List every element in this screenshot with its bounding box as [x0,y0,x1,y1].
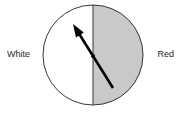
figure-container: White Red [0,0,182,113]
shaded-right-half [93,5,143,105]
label-red: Red [157,50,174,59]
label-white: White [7,50,30,59]
white-left-half [43,5,93,105]
